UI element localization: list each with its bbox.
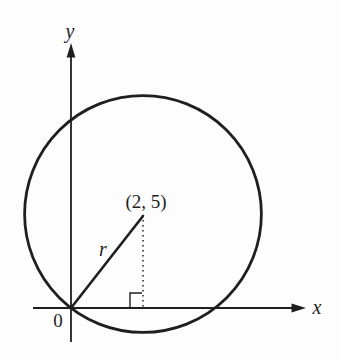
x-axis-label: x xyxy=(312,296,322,318)
radius-label: r xyxy=(99,238,107,260)
y-axis-arrowhead-icon xyxy=(67,43,76,58)
circle-outline xyxy=(25,96,262,333)
right-angle-marker xyxy=(130,293,142,307)
center-point-label: (2, 5) xyxy=(125,191,166,213)
radius-segment xyxy=(71,216,143,308)
x-axis-arrowhead-icon xyxy=(292,304,307,313)
diagram-canvas: y x 0 (2, 5) r xyxy=(0,0,338,361)
origin-label: 0 xyxy=(53,310,63,331)
geometry-diagram: y x 0 (2, 5) r xyxy=(0,0,338,361)
y-axis-label: y xyxy=(64,20,75,43)
